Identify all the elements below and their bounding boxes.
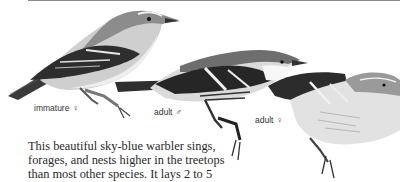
male-symbol-icon: ♂	[175, 107, 181, 117]
female-symbol-icon: ♀	[276, 115, 282, 125]
figure-label-text: adult	[255, 115, 273, 125]
figure-label-text: immature	[34, 103, 69, 113]
figure-label-immature-female: immature♀	[34, 103, 79, 113]
description-line: This beautiful sky-blue warbler sings,	[28, 139, 268, 153]
female-symbol-icon: ♀	[72, 103, 78, 113]
adult-female-warbler-illustration	[268, 72, 400, 178]
description-line: than most other species. It lays 2 to 5	[28, 167, 268, 181]
figure-label-adult-female: adult♀	[255, 115, 283, 125]
immature-female-warbler-illustration	[8, 11, 180, 118]
figure-label-adult-male: adult♂	[154, 107, 182, 117]
description-line: forages, and nests higher in the treetop…	[28, 153, 268, 167]
species-description: This beautiful sky-blue warbler sings, f…	[28, 139, 268, 181]
figure-label-text: adult	[154, 107, 172, 117]
